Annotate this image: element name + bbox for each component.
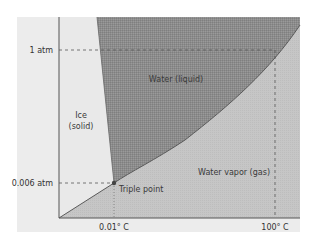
liquid-label: Water (liquid): [149, 75, 203, 84]
y-tick-1-atm: 1 atm: [30, 46, 54, 55]
y-tick-0006-atm: 0.006 atm: [12, 179, 53, 188]
ice-label-line1: Ice: [75, 111, 87, 120]
vapor-label: Water vapor (gas): [198, 168, 270, 177]
ice-label-line2: (solid): [69, 122, 94, 131]
x-tick-001c: 0.01° C: [99, 223, 129, 232]
phase-diagram: Ice (solid) Water (liquid) Water vapor (…: [0, 0, 313, 252]
triple-point-label: Triple point: [118, 185, 163, 194]
x-tick-100c: 100° C: [261, 223, 289, 232]
triple-point-marker: [112, 181, 116, 185]
